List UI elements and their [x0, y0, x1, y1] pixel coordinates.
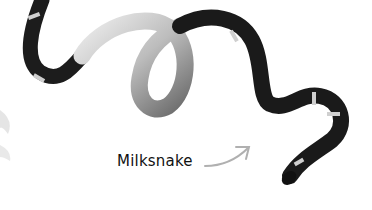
species-label: Milksnake: [117, 152, 193, 170]
faint-leaf-decoration: [0, 110, 10, 161]
figure: Milksnake: [0, 0, 372, 210]
milksnake-illustration: [0, 0, 372, 210]
arrow-icon: [205, 147, 249, 166]
